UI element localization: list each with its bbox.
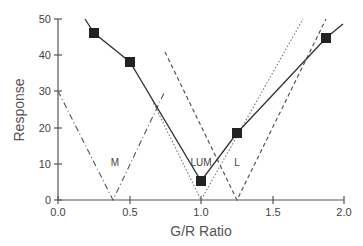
y-tick-labels: 0 10 20 30 40 50 [39,13,51,206]
label-lum: LUM [190,157,211,168]
marker-1-0 [196,176,206,186]
response-chart: 0 10 20 30 40 50 0.0 0.5 1.0 1.5 2.0 G/R… [0,0,363,246]
y-tick-10: 10 [39,158,51,170]
y-tick-20: 20 [39,122,51,134]
y-tick-30: 30 [39,85,51,97]
marker-0-25 [89,28,99,38]
y-axis-title: Response [11,78,27,141]
marker-1-25 [232,128,242,138]
label-m: M [111,157,119,168]
y-tick-40: 40 [39,49,51,61]
marker-0-5 [125,57,135,67]
curve-m [58,91,165,200]
curve-lum [152,19,303,200]
x-tick-1-0: 1.0 [193,206,208,218]
x-tick-labels: 0.0 0.5 1.0 1.5 2.0 [50,206,351,218]
y-tick-0: 0 [45,194,51,206]
x-tick-0-0: 0.0 [50,206,65,218]
marker-1-875 [321,33,331,43]
y-tick-50: 50 [39,13,51,25]
x-tick-2-0: 2.0 [336,206,351,218]
label-l: L [234,157,240,168]
curve-data [85,19,343,181]
x-axis-title: G/R Ratio [170,223,232,239]
x-tick-0-5: 0.5 [122,206,137,218]
curve-l [165,19,326,200]
x-tick-1-5: 1.5 [265,206,280,218]
